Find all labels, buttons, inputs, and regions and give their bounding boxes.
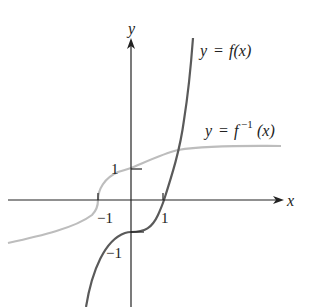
svg-text:=: = [214, 42, 223, 59]
function-inverse-plot: y x −1 1 1 −1 y = f(x) y = f −1 (x) [0, 0, 312, 307]
tick-label-x-neg1: −1 [97, 210, 113, 226]
inverse-function-label: y = f −1 (x) [203, 118, 275, 140]
function-curve [86, 38, 193, 307]
inverse-function-curve [8, 146, 281, 243]
svg-text:y: y [203, 122, 213, 140]
tick-label-x-1: 1 [161, 210, 169, 226]
svg-text:f: f [234, 122, 241, 140]
svg-text:−1: −1 [241, 118, 253, 130]
svg-text:=: = [219, 122, 228, 139]
function-label: y = f(x) [198, 42, 251, 60]
x-axis-label: x [286, 192, 294, 209]
tick-label-y-neg1: −1 [106, 245, 122, 261]
tick-label-y-1: 1 [111, 161, 119, 177]
svg-text:(x): (x) [257, 122, 275, 140]
svg-text:f(x): f(x) [229, 42, 251, 60]
svg-text:y: y [198, 42, 208, 60]
y-axis-label: y [126, 20, 136, 38]
